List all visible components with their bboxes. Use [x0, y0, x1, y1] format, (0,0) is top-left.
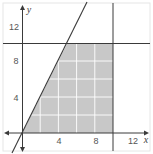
y-tick-12: 12 [9, 22, 19, 32]
x-tick-4: 4 [56, 136, 61, 146]
x-tick-12: 12 [128, 136, 138, 146]
x-tick-8: 8 [93, 136, 98, 146]
y-axis-up-arrow-icon [20, 5, 25, 10]
feasible-region-graph: 4 8 12 4 8 12 x y [0, 0, 153, 154]
x-axis-left-arrow-icon [4, 131, 9, 136]
x-axis-label: x [143, 134, 149, 145]
y-tick-4: 4 [13, 93, 18, 103]
shaded-region [22, 43, 113, 133]
y-tick-8: 8 [13, 56, 18, 66]
y-axis-label: y [26, 4, 32, 15]
